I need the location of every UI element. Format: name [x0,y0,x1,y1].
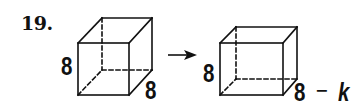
problem-figure: 19. [0,0,361,101]
original-cube-height-label: 8 [61,54,72,79]
new-cube-depth-label-base: 8 [294,80,305,101]
new-cube-height-label: 8 [203,61,214,86]
new-cube-front-face [220,43,283,95]
original-cube [78,18,152,95]
original-cube-depth-label: 8 [145,78,156,101]
cubes-diagram [0,0,361,101]
new-cube-depth-label-var: k [338,80,349,101]
new-cube [220,27,297,95]
transform-arrow [168,50,197,60]
new-cube-hidden-edges [220,27,297,95]
new-cube-depth-label-minus: − [316,78,328,101]
